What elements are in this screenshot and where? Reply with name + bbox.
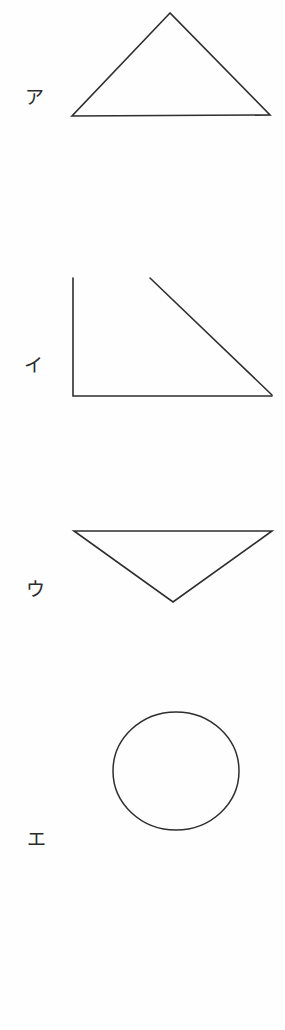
- figure-row-u: ウ: [0, 500, 285, 650]
- figure-row-a: ア: [0, 0, 285, 250]
- worksheet-page: ア イ ウ エ: [0, 0, 285, 1030]
- right-triangle-legs: [73, 278, 272, 396]
- downward-triangle-shape: [74, 531, 272, 602]
- shape-canvas-u: [0, 500, 285, 650]
- figure-row-i: イ: [0, 250, 285, 500]
- shape-canvas-a: [0, 0, 285, 250]
- figure-label-u: ウ: [26, 580, 45, 599]
- circle-shape: [113, 712, 239, 830]
- figure-label-e: エ: [27, 830, 46, 849]
- figure-label-i: イ: [24, 356, 43, 375]
- figure-row-e: エ: [0, 650, 285, 880]
- right-triangle-hypotenuse: [150, 278, 272, 395]
- upward-triangle-shape: [72, 13, 270, 116]
- blank-bottom-margin: [0, 880, 285, 1030]
- figure-label-a: ア: [25, 88, 44, 107]
